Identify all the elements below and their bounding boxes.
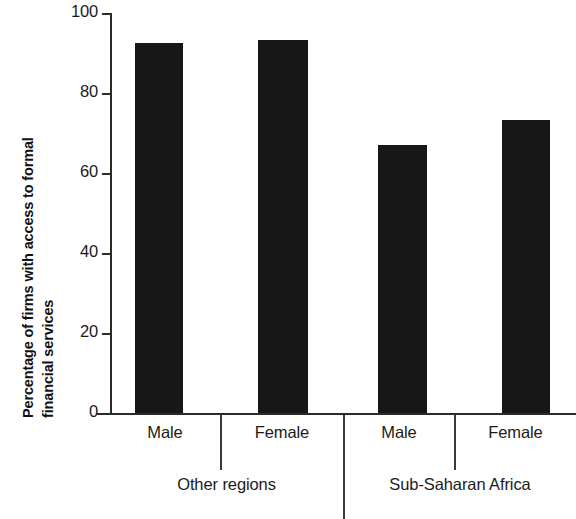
x-axis-line: [96, 413, 576, 415]
separator-within-ssa: [454, 415, 456, 470]
x-label-ssa-male: Male: [344, 423, 454, 442]
x-label-ssa-female: Female: [455, 423, 576, 442]
bars-layer: [0, 0, 576, 414]
separator-between-groups: [343, 415, 345, 519]
bar-other-regions-female: [258, 40, 308, 414]
x-label-other-regions-female: Female: [221, 423, 343, 442]
separator-within-other-regions: [220, 415, 222, 470]
bar-ssa-female: [502, 120, 550, 414]
group-label-sub-saharan-africa: Sub-Saharan Africa: [344, 475, 576, 494]
x-label-other-regions-male: Male: [110, 423, 220, 442]
bar-chart: Percentage of firms with access to forma…: [0, 0, 576, 519]
group-label-other-regions: Other regions: [110, 475, 343, 494]
bar-other-regions-male: [135, 43, 183, 414]
bar-ssa-male: [378, 145, 427, 414]
